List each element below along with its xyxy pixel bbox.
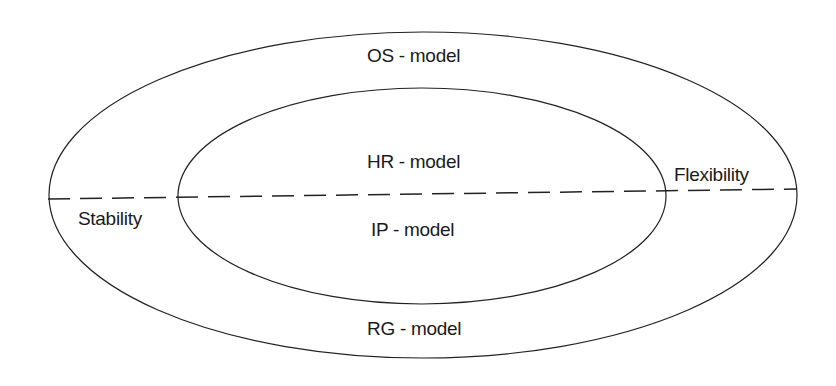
outer-ellipse <box>49 32 797 358</box>
stability-flexibility-axis <box>48 189 797 199</box>
hr-model-label: HR - model <box>367 151 460 173</box>
stability-label: Stability <box>78 208 142 230</box>
ip-model-label: IP - model <box>371 219 454 241</box>
flexibility-label: Flexibility <box>674 164 749 186</box>
rg-model-label: RG - model <box>367 318 461 340</box>
os-model-label: OS - model <box>367 45 460 67</box>
